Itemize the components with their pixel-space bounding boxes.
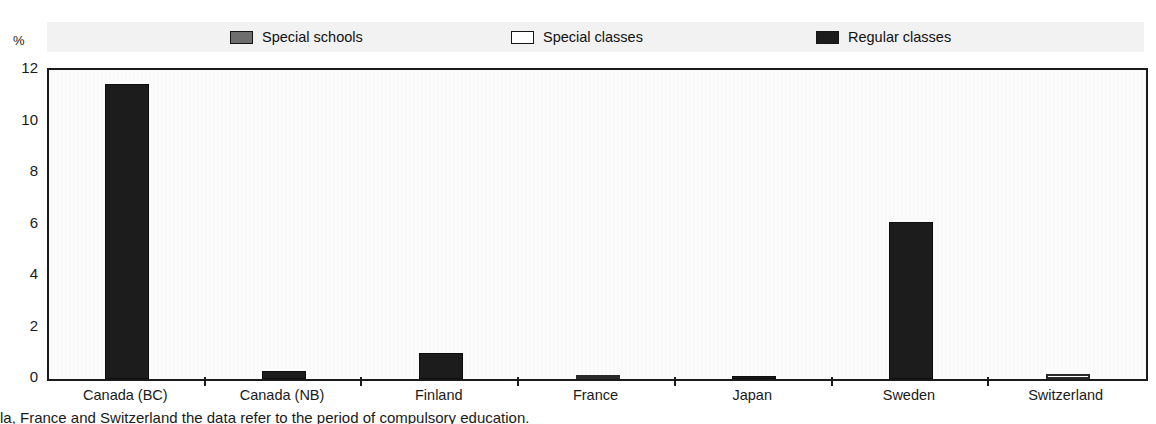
y-axis-tick-label-wrap: 2 xyxy=(0,318,38,333)
y-axis-tick-label-wrap: 8 xyxy=(0,163,38,178)
y-axis-tick-label-wrap: 10 xyxy=(0,112,38,127)
bar xyxy=(1046,374,1090,379)
x-axis-category-label: France xyxy=(573,387,618,403)
y-axis-tick-label: 10 xyxy=(4,112,38,127)
bar xyxy=(105,84,149,379)
y-axis-tick-label: 8 xyxy=(4,163,38,178)
x-axis-tick xyxy=(517,377,519,386)
y-axis-tick-label-wrap: 6 xyxy=(0,215,38,230)
x-axis-tick xyxy=(360,377,362,386)
y-axis-tick-label: 2 xyxy=(4,318,38,333)
x-axis-tick xyxy=(831,377,833,386)
legend-swatch-special-schools xyxy=(230,31,253,44)
y-axis-tick-label-wrap: 0 xyxy=(0,369,38,384)
x-axis-tick xyxy=(987,377,989,386)
x-axis-category-label: Canada (BC) xyxy=(83,387,168,403)
plot-area xyxy=(47,68,1148,381)
bar xyxy=(576,375,620,379)
y-axis-tick-label: 6 xyxy=(4,215,38,230)
bar xyxy=(419,353,463,379)
bar xyxy=(889,222,933,379)
legend-swatch-regular-classes xyxy=(816,31,839,44)
y-axis-tick-label: 4 xyxy=(4,266,38,281)
x-axis-category-label: Sweden xyxy=(883,387,935,403)
legend-item-special-classes: Special classes xyxy=(511,28,643,46)
bar xyxy=(262,371,306,379)
x-axis-category-label: Switzerland xyxy=(1028,387,1103,403)
x-axis-category-label: Finland xyxy=(415,387,463,403)
legend-swatch-special-classes xyxy=(511,31,534,44)
y-axis-tick-label-wrap: 4 xyxy=(0,266,38,281)
legend-label-regular-classes: Regular classes xyxy=(848,29,951,45)
x-axis-category-label: Japan xyxy=(732,387,772,403)
paper-texture xyxy=(49,70,1146,379)
x-axis-tick xyxy=(674,377,676,386)
y-axis-tick-label: 12 xyxy=(4,60,38,75)
legend-label-special-classes: Special classes xyxy=(543,29,643,45)
chart-legend: Special schools Special classes Regular … xyxy=(47,22,1144,52)
figure-caption: la, France and Switzerland the data refe… xyxy=(0,409,1156,424)
legend-item-special-schools: Special schools xyxy=(230,28,363,46)
y-axis-unit-label: % xyxy=(13,33,25,48)
y-axis-tick-label: 0 xyxy=(4,369,38,384)
x-axis-category-label: Canada (NB) xyxy=(240,387,325,403)
legend-item-regular-classes: Regular classes xyxy=(816,28,951,46)
plot-inner xyxy=(49,70,1146,379)
y-axis-tick-label-wrap: 12 xyxy=(0,60,38,75)
legend-label-special-schools: Special schools xyxy=(262,29,363,45)
bar xyxy=(732,376,776,379)
x-axis-tick xyxy=(204,377,206,386)
